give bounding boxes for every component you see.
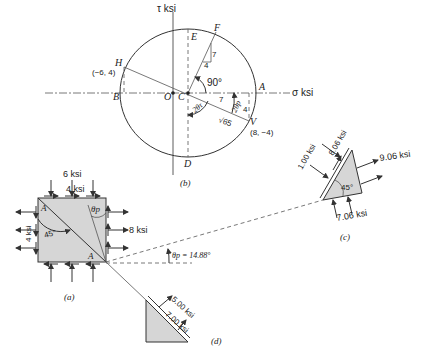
mohr-circle-panel: τ ksi σ ksi E F H (−6, 4) A B O C D V (8…: [45, 3, 313, 188]
panel-d-label: (d): [211, 336, 222, 346]
corner-a-top: A: [40, 203, 47, 213]
theta-p-value-label: θp = 14.88°: [172, 251, 211, 260]
tau-axis-label: τ ksi: [157, 3, 176, 14]
corner-a-bottom: A: [87, 251, 94, 261]
center-dot: [186, 91, 190, 95]
point-d-label: D: [183, 158, 192, 169]
point-b-label: B: [113, 91, 119, 102]
wedge-d-panel: 5.00 ksi 7.00 ksi (d): [146, 295, 222, 346]
radius-label: √65: [217, 115, 233, 128]
h-v-diameter: [124, 67, 249, 121]
wedge-c: [323, 150, 362, 200]
upper-leg-7: 7: [212, 50, 217, 59]
top-shear-label: 4 ksi: [66, 184, 85, 194]
wedge-c-right-label: 9.06 ksi: [379, 149, 411, 163]
point-h-label: H: [114, 57, 123, 68]
wedge-c-normal-label: 1.00 ksi: [296, 142, 318, 171]
point-c-label: C: [178, 91, 185, 102]
theta-p-angle-arc: [168, 249, 169, 263]
point-e-label: E: [190, 31, 197, 42]
origin-dot: [171, 91, 175, 95]
panel-b-label: (b): [180, 178, 191, 188]
lower-leg-7: 7: [219, 95, 224, 104]
upper-leg-4: 4: [204, 61, 209, 70]
wedge-c-bottom-label: 7.06 ksi: [336, 208, 368, 223]
angle-90-label: 90°: [207, 77, 222, 88]
lower-leg-4: 4: [243, 105, 248, 114]
left-shear-label: 4 ksi: [24, 225, 33, 242]
wedge-c-normal-1: [310, 165, 328, 178]
two-theta-p-label: 2θp: [230, 99, 243, 114]
point-f-label: F: [213, 22, 221, 33]
point-v-coord: (8, −4): [250, 128, 274, 137]
sigma-axis-label: σ ksi: [292, 87, 313, 98]
point-v-label: V: [250, 116, 258, 127]
connector-to-d: [106, 262, 146, 300]
point-a-label: A: [258, 81, 266, 92]
panel-a-label: (a): [64, 292, 75, 302]
right-load-label: 8 ksi: [129, 225, 148, 235]
element-a-panel: 6 ksi 4 ksi 8 ksi 4 ksi 45° θp A A (a): [16, 169, 148, 302]
point-h-coord: (−6, 4): [92, 68, 116, 77]
top-load-label: 6 ksi: [63, 169, 82, 179]
point-o-label: O: [164, 91, 171, 102]
wedge-c-panel: 1.00 ksi 8.06 ksi 9.06 ksi 7.06 ksi 45° …: [296, 128, 411, 242]
wedge-c-right-1: [357, 160, 378, 168]
angle-90-arc: [195, 77, 206, 93]
wedge-c-right-2: [361, 176, 382, 184]
wedge-c-angle-label: 45°: [341, 183, 353, 192]
panel-c-label: (c): [340, 232, 350, 242]
two-theta-tau-label: 2θτ: [191, 100, 206, 115]
wedge-c-shear-label: 8.06 ksi: [327, 128, 349, 157]
mohr-circle-figure: τ ksi σ ksi E F H (−6, 4) A B O C D V (8…: [0, 0, 425, 360]
theta-p-label: θp: [91, 204, 100, 214]
